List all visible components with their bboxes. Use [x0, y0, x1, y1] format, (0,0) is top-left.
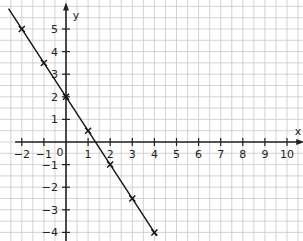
coordinate-graph: −2−1123456789100−4−3−2−112345xy — [0, 0, 303, 241]
x-tick-label: 2 — [107, 148, 114, 161]
axes — [15, 2, 303, 241]
y-tick-label: 5 — [51, 23, 58, 36]
x-axis-arrow-icon — [296, 139, 303, 145]
y-tick-label: −4 — [42, 226, 58, 239]
y-tick-label: 4 — [51, 46, 58, 59]
y-axis-label: y — [73, 9, 80, 22]
x-tick-label: 4 — [151, 148, 158, 161]
x-tick-label: 1 — [85, 148, 92, 161]
y-tick-label: 1 — [51, 113, 58, 126]
y-tick-label: −3 — [42, 204, 58, 217]
x-axis-label: x — [295, 125, 302, 138]
x-tick-label: 5 — [173, 148, 180, 161]
x-tick-label: 3 — [129, 148, 136, 161]
x-tick-label: 8 — [239, 148, 246, 161]
x-tick-label: 7 — [217, 148, 224, 161]
x-tick-label: 6 — [195, 148, 202, 161]
y-tick-label: −2 — [42, 181, 58, 194]
series-line — [9, 9, 157, 236]
y-tick-label: −1 — [42, 159, 58, 172]
tick-labels: −2−1123456789100−4−3−2−112345xy — [14, 9, 302, 239]
x-tick-label: 10 — [280, 148, 294, 161]
x-tick-label: 9 — [261, 148, 268, 161]
y-tick-label: 2 — [51, 91, 58, 104]
data-series — [9, 9, 158, 236]
x-tick-label: −2 — [14, 148, 30, 161]
origin-label: 0 — [57, 146, 64, 159]
